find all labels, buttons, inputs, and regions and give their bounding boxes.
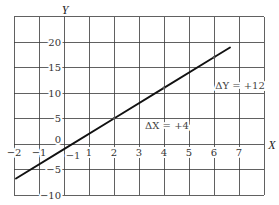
annotation-delta-y: ΔY = +12 — [215, 80, 265, 91]
y-tick-label: 20 — [48, 37, 61, 48]
x-tick-label: −1 — [32, 147, 47, 158]
marked-point — [163, 87, 166, 90]
x-tick-label: 3 — [136, 147, 142, 158]
y-tick-label: 5 — [55, 113, 61, 124]
marked-point — [113, 117, 116, 120]
y-tick-label: 0 — [55, 134, 61, 145]
x-tick-label: −2 — [7, 147, 22, 158]
x-tick-label: 5 — [186, 147, 192, 158]
line-chart: −2−11234567 20151050−5−10 ΔY = +12ΔX = +… — [0, 0, 279, 205]
x-tick-label: 2 — [111, 147, 117, 158]
y-tick-label: 15 — [48, 62, 61, 73]
x-tick-label: 4 — [161, 147, 167, 158]
y-tick-label: −10 — [40, 190, 61, 201]
marked-point — [213, 56, 216, 59]
x-tick-label: 1 — [86, 147, 92, 158]
annotation-y-intercept: −1 — [66, 150, 81, 161]
x-tick-label: 7 — [236, 147, 242, 158]
annotation-delta-x: ΔX = +4 — [145, 120, 189, 131]
x-tick-label: 6 — [211, 147, 217, 158]
x-axis-label: X — [267, 138, 276, 152]
y-tick-label: 10 — [48, 88, 61, 99]
y-axis-label: Y — [62, 3, 70, 17]
x-tick-labels: −2−11234567 — [7, 147, 243, 158]
y-tick-label: −5 — [46, 164, 61, 175]
